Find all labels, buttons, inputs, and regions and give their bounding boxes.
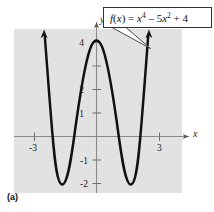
y-tick-label--1: -1	[80, 156, 88, 166]
equation-text: f(x) = x4 – 5x2 + 4	[110, 11, 189, 25]
x-tick-label--3: -3	[29, 143, 37, 153]
equation-constant: 4	[183, 12, 189, 24]
x-tick-label-3: 3	[157, 143, 162, 153]
y-tick-label-1: 1	[79, 109, 84, 119]
y-tick-label--2: -2	[80, 179, 88, 189]
equation-plus: +	[171, 12, 183, 24]
figure-caption: (a)	[7, 192, 18, 202]
equation-minus: –	[146, 12, 157, 24]
figure-container: -3 3 4 2 1 -1 -2 x y f(x) = x4 – 5x2 + 4…	[0, 0, 214, 212]
equation-equals: =	[125, 12, 137, 24]
plot-background	[14, 29, 182, 193]
x-axis-label: x	[192, 128, 198, 139]
graph-figure: -3 3 4 2 1 -1 -2 x y f(x) = x4 – 5x2 + 4	[0, 0, 214, 212]
y-tick-label-4: 4	[79, 38, 84, 48]
